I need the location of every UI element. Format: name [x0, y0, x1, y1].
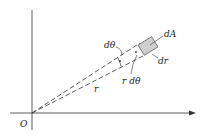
label-dtheta: dθ: [104, 40, 116, 50]
label-rdtheta: r dθ: [122, 76, 141, 86]
rdtheta-dot: [135, 51, 137, 53]
label-dA: dA: [164, 29, 177, 39]
area-element: [138, 37, 158, 56]
label-dr: dr: [158, 56, 169, 66]
label-origin: O: [20, 119, 28, 129]
dtheta-arc: [118, 58, 121, 66]
rdtheta-leader: [131, 55, 137, 74]
x-axis-arrow-icon: [189, 111, 196, 116]
dtheta-leader: [116, 47, 122, 55]
label-r: r: [94, 84, 99, 94]
dtheta-dot: [119, 60, 121, 62]
polar-area-diagram: O dθ dA dr r dθ r: [0, 0, 202, 139]
